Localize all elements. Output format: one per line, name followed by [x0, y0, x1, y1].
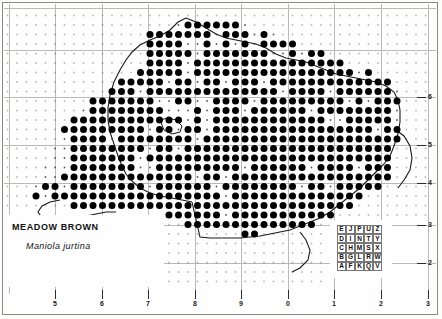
presence-dot — [232, 212, 239, 219]
presence-dot — [308, 155, 315, 162]
presence-dot — [99, 136, 106, 143]
presence-dot — [90, 164, 97, 171]
presence-dot — [90, 183, 97, 190]
presence-dot — [194, 60, 201, 67]
presence-dot — [204, 31, 211, 38]
presence-dot — [128, 183, 135, 190]
presence-dot — [175, 202, 182, 209]
presence-dot — [185, 193, 192, 200]
presence-dot — [261, 60, 268, 67]
presence-dot — [251, 136, 258, 143]
presence-dot — [52, 193, 59, 200]
presence-dot — [213, 117, 220, 124]
presence-dot — [375, 98, 382, 105]
presence-dot — [356, 126, 363, 133]
key-cell-Z: Z — [373, 225, 382, 234]
presence-dot — [99, 117, 106, 124]
presence-dot — [223, 202, 230, 209]
presence-dot — [175, 117, 182, 124]
presence-dot — [99, 202, 106, 209]
presence-dot — [118, 107, 125, 114]
presence-dot — [166, 155, 173, 162]
presence-dot — [118, 193, 125, 200]
presence-dot — [204, 174, 211, 181]
presence-dot — [109, 107, 116, 114]
presence-dot — [80, 183, 87, 190]
presence-dot — [166, 212, 173, 219]
presence-dot — [365, 155, 372, 162]
presence-dot — [337, 145, 344, 152]
presence-dot — [175, 60, 182, 67]
presence-dot — [204, 202, 211, 209]
presence-dot — [251, 164, 258, 171]
presence-dot — [299, 88, 306, 95]
presence-dot — [356, 155, 363, 162]
presence-dot — [327, 193, 334, 200]
presence-dot — [99, 174, 106, 181]
presence-dot — [204, 88, 211, 95]
axis-label-right-4: 4 — [428, 179, 440, 186]
tick-right-3 — [417, 225, 426, 226]
presence-dot — [346, 174, 353, 181]
presence-dot — [147, 155, 154, 162]
presence-dot — [384, 155, 391, 162]
presence-dot — [232, 202, 239, 209]
presence-dot — [232, 155, 239, 162]
presence-dot — [280, 155, 287, 162]
presence-dot — [289, 117, 296, 124]
presence-dot — [337, 202, 344, 209]
axis-label-bottom-6: 6 — [97, 300, 107, 307]
presence-dot — [242, 126, 249, 133]
presence-dot — [270, 69, 277, 76]
presence-dot — [318, 145, 325, 152]
presence-dot — [137, 117, 144, 124]
presence-dot — [375, 164, 382, 171]
presence-dot — [137, 145, 144, 152]
presence-dot — [90, 126, 97, 133]
presence-dot — [213, 60, 220, 67]
presence-dot — [109, 155, 116, 162]
presence-dot — [232, 193, 239, 200]
presence-dot — [99, 107, 106, 114]
presence-dot — [308, 98, 315, 105]
presence-dot — [90, 193, 97, 200]
presence-dot — [175, 174, 182, 181]
presence-dot — [375, 145, 382, 152]
presence-dot — [242, 60, 249, 67]
presence-dot — [166, 117, 173, 124]
presence-dot — [90, 155, 97, 162]
key-cell-G: G — [346, 253, 355, 262]
tick-bottom-4 — [241, 290, 242, 299]
presence-dot — [223, 41, 230, 48]
presence-dot — [318, 202, 325, 209]
presence-dot — [384, 136, 391, 143]
presence-dot — [242, 69, 249, 76]
presence-dot — [280, 164, 287, 171]
presence-dot — [299, 69, 306, 76]
key-cell-I: I — [346, 234, 355, 243]
presence-dot — [270, 79, 277, 86]
presence-dot — [223, 126, 230, 133]
species-title-block: MEADOW BROWN Maniola jurtina — [12, 222, 162, 251]
presence-dot — [128, 145, 135, 152]
presence-dot — [280, 212, 287, 219]
presence-dot — [337, 126, 344, 133]
presence-dot — [223, 107, 230, 114]
presence-dot — [337, 107, 344, 114]
presence-dot — [289, 88, 296, 95]
presence-dot — [175, 193, 182, 200]
presence-dot — [242, 221, 249, 228]
presence-dot — [213, 212, 220, 219]
presence-dot — [166, 164, 173, 171]
presence-dot — [384, 164, 391, 171]
axis-label-bottom-3: 3 — [423, 300, 433, 307]
presence-dot — [318, 88, 325, 95]
presence-dot — [375, 155, 382, 162]
presence-dot — [232, 145, 239, 152]
presence-dot — [327, 155, 334, 162]
presence-dot — [61, 126, 68, 133]
presence-dot — [318, 212, 325, 219]
presence-dot — [356, 79, 363, 86]
presence-dot — [327, 69, 334, 76]
presence-dot — [223, 221, 230, 228]
